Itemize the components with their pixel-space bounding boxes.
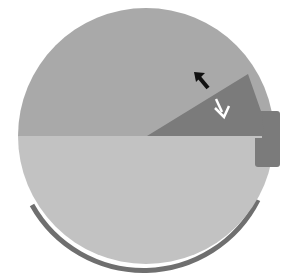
circle-diagram bbox=[0, 0, 296, 279]
lower-half bbox=[18, 136, 274, 264]
lower-half-edge bbox=[147, 136, 262, 138]
